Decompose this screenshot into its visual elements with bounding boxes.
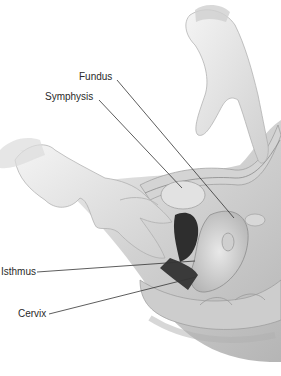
label-cervix: Cervix <box>18 308 46 320</box>
symphysis-region <box>161 181 205 209</box>
upper-glove-hand <box>186 10 268 163</box>
anatomy-illustration: Fundus Symphysis Isthmus Cervix <box>0 0 281 376</box>
ovary <box>222 233 234 251</box>
label-fundus: Fundus <box>79 71 112 83</box>
leader-symphysis <box>99 100 182 188</box>
lower-glove-hand <box>15 145 172 258</box>
label-isthmus: Isthmus <box>1 266 36 278</box>
label-symphysis: Symphysis <box>45 91 93 103</box>
